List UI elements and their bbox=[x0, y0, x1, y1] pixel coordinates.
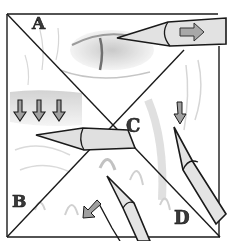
pencil-partial-left bbox=[97, 200, 120, 241]
figure-canvas bbox=[0, 0, 232, 241]
panel-label-c: C bbox=[126, 117, 140, 135]
down-arrow-icon bbox=[174, 102, 186, 124]
down-left-arrow-icon bbox=[83, 200, 101, 218]
pencil-c bbox=[174, 102, 226, 224]
panel-label-a: A bbox=[32, 15, 45, 32]
drawing-tutorial-figure: A B C D bbox=[0, 0, 232, 241]
panel-label-d: D bbox=[174, 209, 190, 227]
down-arrow-row bbox=[14, 100, 65, 121]
panel-label-b: B bbox=[12, 193, 26, 210]
pencil-horizontal bbox=[36, 128, 135, 150]
